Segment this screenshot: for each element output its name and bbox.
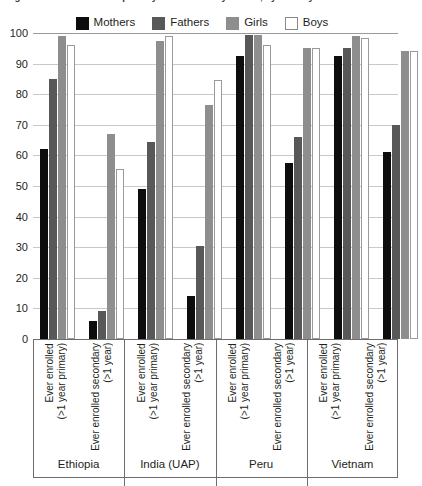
y-tick-label-10: 10 (16, 302, 28, 314)
bar-fathers[interactable] (49, 79, 57, 339)
country-group-vietnam (327, 33, 422, 339)
bar-group (327, 33, 376, 339)
bar-girls[interactable] (303, 48, 311, 339)
category-cell-group: Ever enrolled (>1 year primary)Ever enro… (33, 340, 124, 452)
bar-mothers[interactable] (40, 149, 48, 339)
legend-item-boys[interactable]: Boys (285, 17, 329, 30)
bar-girls[interactable] (352, 36, 360, 339)
legend-swatch-girls (226, 17, 239, 30)
legend-item-girls[interactable]: Girls (226, 17, 268, 30)
legend-item-mothers[interactable]: Mothers (76, 17, 136, 30)
y-tick-label-100: 100 (10, 27, 28, 39)
bar-fathers[interactable] (196, 246, 204, 339)
bar-mothers[interactable] (334, 56, 342, 339)
y-tick-label-70: 70 (16, 119, 28, 131)
bar-girls[interactable] (401, 51, 409, 339)
country-group-ethiopia (33, 33, 131, 339)
legend-label-girls: Girls (244, 17, 268, 29)
category-cell-group: Ever enrolled (>1 year primary)Ever enro… (307, 340, 398, 452)
y-tick-label-50: 50 (16, 180, 28, 192)
category-label-primary: Ever enrolled (>1 year primary) (136, 343, 159, 419)
bar-fathers[interactable] (98, 311, 106, 339)
category-label-primary: Ever enrolled (>1 year primary) (227, 343, 250, 419)
bar-mothers[interactable] (187, 296, 195, 339)
bar-boys[interactable] (165, 36, 173, 339)
bar-boys[interactable] (361, 38, 369, 339)
legend-label-mothers: Mothers (94, 17, 136, 29)
country-group-india-uap (131, 33, 229, 339)
bar-girls[interactable] (58, 36, 66, 339)
axis-right-edge (397, 339, 398, 478)
category-label-primary: Ever enrolled (>1 year primary) (44, 343, 67, 419)
category-label-secondary: Ever enrolled secondary (>1 year) (364, 343, 387, 451)
bars-layer (33, 33, 398, 339)
category-label-cell: Ever enrolled secondary (>1 year) (352, 340, 398, 452)
bar-group (82, 33, 131, 339)
y-tick-label-90: 90 (16, 58, 28, 70)
bar-fathers[interactable] (294, 137, 302, 339)
axis-left-edge (33, 339, 34, 478)
bar-fathers[interactable] (245, 35, 253, 339)
y-axis: 1009080706050403020100 (0, 33, 32, 339)
bar-group (180, 33, 229, 339)
y-tick-label-80: 80 (16, 88, 28, 100)
country-label-ethiopia: Ethiopia (33, 451, 124, 477)
y-tick-label-20: 20 (16, 272, 28, 284)
bar-mothers[interactable] (285, 163, 293, 339)
category-label-cell: Ever enrolled (>1 year primary) (124, 340, 170, 452)
bar-boys[interactable] (312, 48, 320, 339)
category-label-cell: Ever enrolled (>1 year primary) (307, 340, 353, 452)
bar-group (376, 33, 422, 339)
category-label-secondary: Ever enrolled secondary (>1 year) (272, 343, 295, 451)
bar-group (33, 33, 82, 339)
category-axis-labels: Ever enrolled (>1 year primary)Ever enro… (33, 339, 398, 452)
axis-bottom-line (33, 477, 398, 478)
legend-swatch-fathers (152, 17, 165, 30)
bar-mothers[interactable] (236, 56, 244, 339)
category-cell-group: Ever enrolled (>1 year primary)Ever enro… (124, 340, 215, 452)
chart-legend: MothersFathersGirlsBoys (0, 13, 404, 33)
legend-swatch-boys (285, 17, 298, 30)
legend-swatch-mothers (76, 17, 89, 30)
bar-mothers[interactable] (383, 152, 391, 339)
bar-girls[interactable] (156, 41, 164, 339)
category-label-secondary: Ever enrolled secondary (>1 year) (90, 343, 113, 451)
chart-title: Figure 4. Ever enrolled in primary and s… (6, 0, 402, 3)
bar-boys[interactable] (410, 51, 418, 339)
bar-boys[interactable] (214, 80, 222, 339)
bar-fathers[interactable] (392, 125, 400, 339)
chart-plot-area: 1009080706050403020100 Ever enrolled (>1… (0, 33, 404, 484)
bar-boys[interactable] (67, 45, 75, 339)
country-label-vietnam: Vietnam (307, 451, 398, 477)
bar-group (229, 33, 278, 339)
y-tick-label-60: 60 (16, 149, 28, 161)
category-cell-group: Ever enrolled (>1 year primary)Ever enro… (216, 340, 307, 452)
country-group-peru (229, 33, 327, 339)
category-label-cell: Ever enrolled secondary (>1 year) (170, 340, 216, 452)
bar-fathers[interactable] (147, 142, 155, 339)
country-axis-labels: EthiopiaIndia (UAP)PeruVietnam (33, 451, 398, 477)
bar-girls[interactable] (254, 35, 262, 339)
bar-group (278, 33, 327, 339)
bar-girls[interactable] (107, 134, 115, 339)
bar-boys[interactable] (116, 169, 124, 339)
country-label-india-uap: India (UAP) (124, 451, 215, 477)
legend-item-fathers[interactable]: Fathers (152, 17, 209, 30)
y-tick-label-40: 40 (16, 211, 28, 223)
bar-girls[interactable] (205, 105, 213, 339)
category-label-primary: Ever enrolled (>1 year primary) (318, 343, 341, 419)
legend-label-fathers: Fathers (170, 17, 209, 29)
plot-canvas (33, 33, 398, 339)
y-tick-label-0: 0 (22, 333, 28, 345)
bar-mothers[interactable] (89, 321, 97, 339)
category-label-cell: Ever enrolled secondary (>1 year) (79, 340, 125, 452)
category-label-cell: Ever enrolled secondary (>1 year) (261, 340, 307, 452)
bar-boys[interactable] (263, 45, 271, 339)
category-label-secondary: Ever enrolled secondary (>1 year) (181, 343, 204, 451)
category-label-cell: Ever enrolled (>1 year primary) (216, 340, 262, 452)
legend-label-boys: Boys (303, 17, 329, 29)
bar-fathers[interactable] (343, 48, 351, 339)
country-label-peru: Peru (216, 451, 307, 477)
bar-mothers[interactable] (138, 189, 146, 339)
y-tick-label-30: 30 (16, 241, 28, 253)
